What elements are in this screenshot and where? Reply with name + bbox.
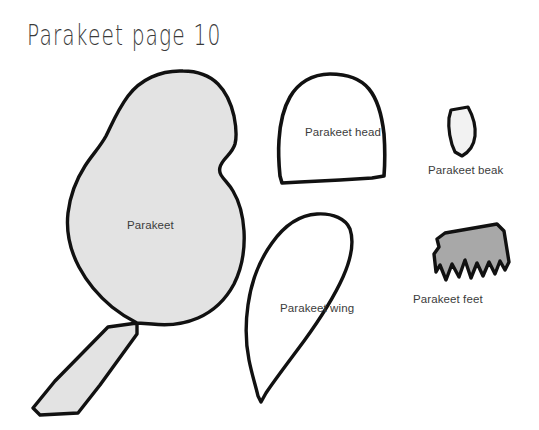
- page-title: Parakeet page 10: [27, 20, 221, 51]
- label-parakeet-head: Parakeet head: [305, 126, 381, 138]
- label-parakeet-wing: Parakeet wing: [280, 302, 354, 314]
- shape-parakeet-feet[interactable]: [434, 224, 509, 280]
- label-parakeet-beak: Parakeet beak: [428, 164, 503, 176]
- shape-parakeet-beak[interactable]: [449, 107, 475, 156]
- shape-parakeet-body[interactable]: [33, 71, 244, 415]
- label-parakeet-body: Parakeet: [127, 219, 174, 231]
- label-parakeet-feet: Parakeet feet: [413, 293, 483, 305]
- pattern-sheet: Parakeet page 10 Parakeet Parakeet head …: [0, 0, 539, 430]
- pattern-shapes-canvas: [0, 0, 539, 430]
